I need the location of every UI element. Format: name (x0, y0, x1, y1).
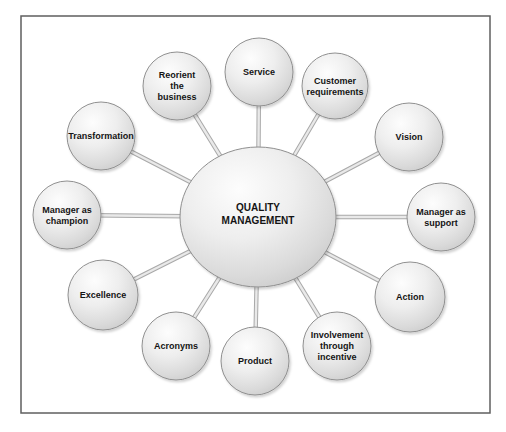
quality-management-diagram: QUALITYMANAGEMENTServiceCustomerrequirem… (0, 0, 506, 432)
node-manager-as-support: Manager assupport (407, 183, 475, 251)
node-service: Service (225, 38, 293, 106)
node-product: Product (221, 327, 289, 395)
node-reorient-the-business: Reorientthebusiness (143, 52, 211, 120)
node-acronyms: Acronyms (142, 312, 210, 380)
node-quality-management: QUALITYMANAGEMENT (180, 147, 336, 287)
node-customer-requirements: Customerrequirements (302, 53, 368, 119)
node-transformation-label: Transformation (68, 131, 134, 141)
node-manager-as-champion-label: Manager aschampion (42, 205, 92, 226)
node-customer-requirements-label: Customerrequirements (306, 76, 363, 97)
node-manager-as-champion: Manager aschampion (33, 181, 101, 249)
node-excellence: Excellence (68, 260, 138, 330)
node-product-label: Product (238, 356, 272, 366)
figure-canvas: QUALITYMANAGEMENTServiceCustomerrequirem… (0, 0, 506, 432)
node-transformation: Transformation (67, 102, 135, 170)
node-acronyms-label: Acronyms (154, 341, 198, 351)
node-involvement-through-incentive: Involvementthroughincentive (303, 312, 371, 380)
node-excellence-label: Excellence (80, 290, 127, 300)
node-action-label: Action (396, 292, 424, 302)
node-action: Action (375, 262, 445, 332)
node-vision-label: Vision (396, 132, 423, 142)
node-service-label: Service (243, 67, 275, 77)
node-vision: Vision (375, 103, 443, 171)
